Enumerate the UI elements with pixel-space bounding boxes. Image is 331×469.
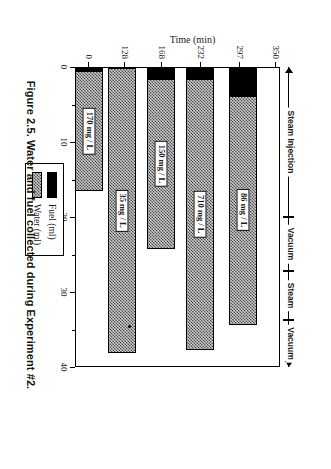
bar-row: 86 mg / L — [229, 68, 257, 325]
axis-tick-time-128 — [124, 62, 125, 67]
axis-tick-effluent-30 — [70, 292, 75, 293]
axis-label-effluent-30: 30 — [59, 287, 69, 296]
legend-label-fuel: Fuel (ml) — [47, 204, 57, 240]
axis-tick-effluent-10 — [70, 142, 75, 143]
axis-label-time-0: 0 — [84, 41, 94, 59]
phase-cap-left — [283, 320, 294, 321]
axis-tick-effluent-5 — [72, 104, 75, 105]
bar-row: 35 mg / L — [108, 68, 136, 353]
axis-tick-time-297 — [239, 62, 240, 67]
phase-cap-left — [283, 217, 294, 218]
bar-value-label: 170 mg / L — [82, 107, 95, 154]
axis-label-time-128: 128 — [120, 41, 130, 59]
phase-label: Vacuum — [286, 224, 296, 263]
axis-tick-effluent-40 — [70, 367, 75, 368]
phase-span-steam: Steam — [284, 271, 294, 320]
phase-label: Vacuum — [286, 324, 296, 363]
phase-label: Steam — [286, 279, 296, 311]
bar-segment-fuel — [186, 68, 214, 79]
plot-area: 86 mg / L 710 mg / L 150 mg / L — [75, 67, 280, 367]
bar-segment-water: 86 mg / L — [229, 95, 257, 324]
axis-tick-effluent-15 — [72, 179, 75, 180]
axis-label-effluent-40: 40 — [59, 362, 69, 371]
axis-tick-time-168 — [161, 62, 162, 67]
axis-tick-time-350 — [275, 62, 276, 67]
bar-segment-water: 150 mg / L — [147, 79, 175, 249]
legend-item-fuel: Fuel (ml) — [47, 172, 57, 245]
data-marker-dot — [128, 325, 131, 328]
bar-value-label: 35 mg / L — [115, 189, 128, 231]
phase-span-vacuum-2: Vacuum — [284, 320, 294, 367]
axis-tick-effluent-0 — [70, 67, 75, 68]
rotated-figure: Steam Injection Vacuum Steam Vacuum — [16, 15, 316, 455]
bar-segment-water: 35 mg / L — [108, 68, 136, 353]
bar-value-label: 86 mg / L — [236, 189, 249, 231]
figure-caption: Figure 2.5. Water and fuel collected dur… — [25, 15, 37, 455]
bar-segment-water: 710 mg / L — [186, 78, 214, 350]
phase-span-steam-injection: Steam Injection — [284, 67, 294, 217]
bar-value-label: 710 mg / L — [193, 191, 206, 238]
axis-label-effluent-0: 0 — [59, 64, 69, 69]
phase-label: Steam Injection — [286, 107, 296, 176]
axis-label-effluent-10: 10 — [59, 137, 69, 146]
bar-segment-fuel — [229, 68, 257, 96]
axis-tick-effluent-35 — [72, 329, 75, 330]
bar-segment-water: 170 mg / L — [75, 71, 103, 191]
phase-annotation-rail: Steam Injection Vacuum Steam Vacuum — [282, 67, 310, 367]
figure-page: Steam Injection Vacuum Steam Vacuum — [0, 0, 331, 469]
phase-span-vacuum-1: Vacuum — [284, 217, 294, 271]
axis-tick-time-0 — [88, 62, 89, 67]
axis-tick-effluent-20 — [70, 217, 75, 218]
bar-value-label: 150 mg / L — [154, 140, 167, 187]
phase-cap-left — [283, 271, 294, 272]
bar-segment-fuel — [147, 68, 175, 79]
legend-swatch-fuel-icon — [47, 172, 57, 198]
bar-row: 170 mg / L — [75, 68, 103, 191]
bar-row: 150 mg / L — [147, 68, 175, 249]
axis-label-time-350: 350 — [271, 41, 281, 59]
phase-arrow-left-icon — [285, 67, 293, 73]
axis-tick-effluent-25 — [72, 254, 75, 255]
bar-row: 710 mg / L — [186, 68, 214, 350]
axis-tick-time-232 — [200, 62, 201, 67]
time-axis-title: Time (min) — [132, 33, 252, 44]
